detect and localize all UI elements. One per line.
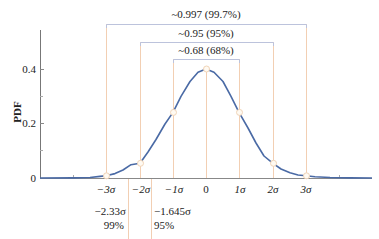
bracket-label-68: ~0.68 (68%): [178, 44, 234, 57]
y-tick-label-0-4: 0.4: [22, 63, 36, 75]
y-tick-label-0-2: 0.2: [22, 117, 36, 129]
annotation-minus-1-645-sigma: −1.645σ: [154, 205, 191, 217]
x-tick-label-1-sigma: 1σ: [235, 183, 247, 195]
x-tick-label-minus-2-sigma: −2σ: [132, 183, 151, 195]
point-minus-3-sigma: [104, 173, 110, 179]
point-2-sigma: [271, 160, 277, 166]
sigma-guide-lines: [107, 24, 307, 239]
x-tick-label-minus-3-sigma: −3σ: [97, 183, 116, 195]
x-tick-label-zero: 0: [203, 183, 209, 195]
point-zero: [204, 66, 210, 72]
y-tick-label-0: 0: [31, 172, 37, 184]
normal-distribution-chart: ~0.997 (99.7%) ~0.95 (95%) ~0.68 (68%) 0…: [0, 0, 379, 239]
point-minus-2-sigma: [138, 160, 144, 166]
bracket-label-99-7: ~0.997 (99.7%): [171, 8, 241, 21]
point-1-sigma: [237, 109, 243, 115]
annotation-99-percent: 99%: [104, 219, 124, 231]
x-tick-label-2-sigma: 2σ: [268, 183, 280, 195]
bracket-label-95: ~0.95 (95%): [178, 27, 234, 40]
point-3-sigma: [304, 173, 310, 179]
y-axis-label: PDF: [11, 101, 23, 123]
bracket-68: [174, 60, 240, 64]
point-minus-1-sigma: [171, 109, 177, 115]
x-tick-label-3-sigma: 3σ: [300, 183, 313, 195]
annotation-95-percent: 95%: [154, 219, 174, 231]
x-tick-label-minus-1-sigma: −1σ: [165, 183, 184, 195]
annotation-minus-2-33-sigma: −2.33σ: [95, 205, 126, 217]
